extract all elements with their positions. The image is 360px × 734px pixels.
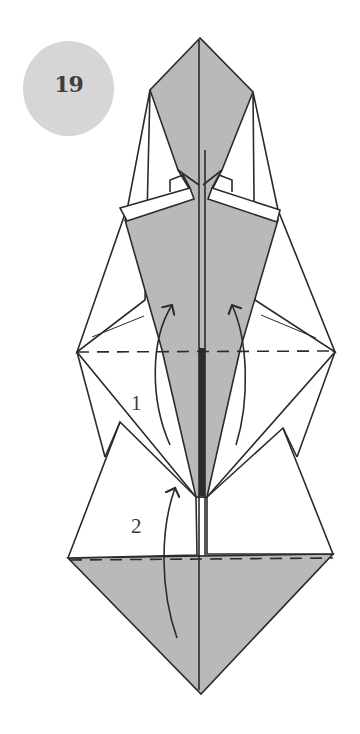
origami-diagram: 1 2 bbox=[0, 0, 360, 734]
center-dark-strip bbox=[199, 348, 205, 496]
fold-label-2: 2 bbox=[131, 514, 142, 538]
bottom-colored-triangle bbox=[68, 554, 333, 694]
fold-label-1: 1 bbox=[131, 391, 142, 415]
